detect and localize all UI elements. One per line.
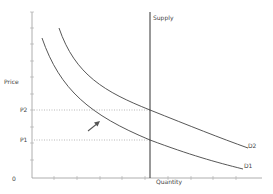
d2-curve bbox=[59, 28, 248, 148]
origin-label: 0 bbox=[12, 175, 16, 182]
supply-demand-chart: Supply D2 D1 Price P2 P1 0 Quantity bbox=[0, 0, 273, 194]
d1-curve bbox=[42, 38, 243, 169]
quantity-label: Quantity bbox=[156, 178, 182, 186]
price-label: Price bbox=[4, 78, 19, 85]
p1-label: P1 bbox=[20, 136, 28, 143]
d1-label: D1 bbox=[244, 162, 253, 169]
p2-label: P2 bbox=[20, 106, 28, 113]
d2-label: D2 bbox=[248, 142, 257, 149]
supply-label: Supply bbox=[153, 14, 174, 22]
shift-arrow-icon bbox=[88, 121, 100, 131]
